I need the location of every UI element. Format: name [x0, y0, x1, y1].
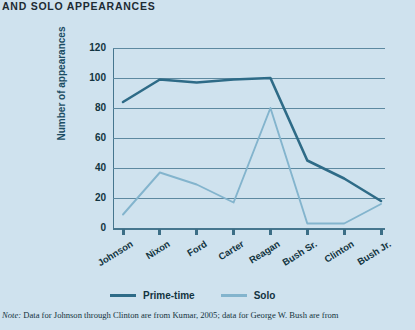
x-tick-ford: [195, 229, 198, 235]
gridline-60: [113, 138, 385, 139]
x-tick-reagan: [269, 229, 272, 235]
x-tick-clinton: [343, 229, 346, 235]
plot-area: [113, 48, 385, 228]
gridline-80: [113, 108, 385, 109]
x-tick-bush-sr: [306, 229, 309, 235]
x-tick-carter: [232, 229, 235, 235]
gridline-40: [113, 168, 385, 169]
legend-label-solo: Solo: [254, 290, 276, 301]
footnote-label: Note:: [2, 310, 21, 320]
gridline-100: [113, 78, 385, 79]
gridline-120: [113, 48, 385, 49]
y-tick-label-20: 20: [72, 192, 106, 203]
chart-footnote: Note: Data for Johnson through Clinton a…: [2, 310, 339, 320]
gridline-20: [113, 198, 385, 199]
chart-legend: Prime-time Solo: [110, 290, 275, 301]
y-tick-label-60: 60: [72, 132, 106, 143]
legend-swatch-solo: [221, 294, 247, 297]
y-tick-label-80: 80: [72, 102, 106, 113]
y-tick-label-120: 120: [72, 42, 106, 53]
y-axis-title: Number of appearances: [56, 19, 67, 149]
x-tick-nixon: [158, 229, 161, 235]
legend-item-solo[interactable]: Solo: [221, 290, 276, 301]
legend-label-prime-time: Prime-time: [143, 290, 195, 301]
x-tick-johnson: [122, 229, 125, 235]
y-tick-label-0: 0: [72, 222, 106, 233]
footnote-text: Data for Johnson through Clinton are fro…: [21, 310, 338, 320]
legend-item-prime-time[interactable]: Prime-time: [110, 290, 195, 301]
chart-heading: AND SOLO APPEARANCES: [2, 0, 155, 12]
x-tick-bush-jr: [380, 229, 383, 235]
y-tick-label-100: 100: [72, 72, 106, 83]
y-tick-label-40: 40: [72, 162, 106, 173]
legend-swatch-prime-time: [110, 294, 136, 297]
